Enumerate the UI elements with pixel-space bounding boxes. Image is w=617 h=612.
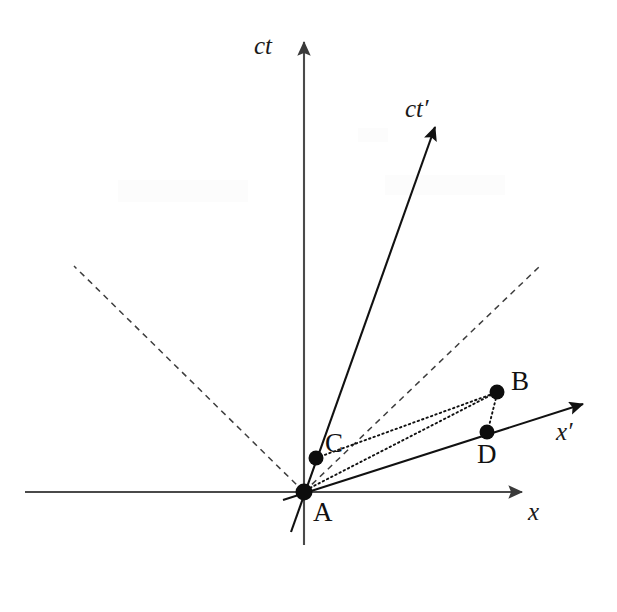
axes-group	[25, 42, 583, 545]
lightcone-left-line	[74, 266, 304, 492]
spacetime-diagram-figure: ct x ct′ x′ A B C D	[0, 0, 617, 612]
axis-labels-group: ct x ct′ x′	[254, 32, 573, 525]
event-dot-a[interactable]	[296, 484, 313, 501]
event-dot-b[interactable]	[490, 385, 505, 400]
ct-prime-axis-line	[291, 127, 435, 532]
event-label-b: B	[511, 366, 529, 396]
lightcone-group	[74, 266, 540, 492]
ct-prime-axis-label: ct′	[405, 95, 429, 122]
diagram-canvas: ct x ct′ x′ A B C D	[0, 0, 617, 612]
lightcone-right-line	[304, 266, 540, 492]
x-prime-axis-label: x′	[555, 418, 573, 445]
ct-axis-label: ct	[254, 32, 273, 59]
event-dot-d[interactable]	[480, 425, 495, 440]
event-dot-c[interactable]	[309, 451, 324, 466]
connector-b-to-d-line	[488, 394, 497, 430]
event-label-d: D	[477, 439, 497, 469]
event-label-c: C	[325, 428, 343, 458]
event-label-a: A	[313, 497, 333, 527]
x-axis-label: x	[527, 498, 539, 525]
